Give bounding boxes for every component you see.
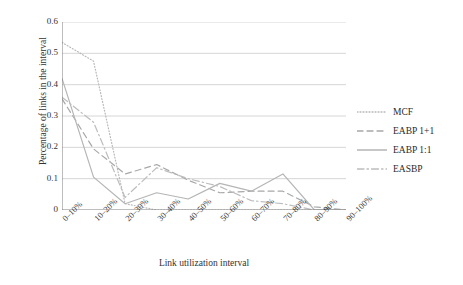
y-tick-label: 0.2 — [30, 142, 58, 151]
legend-item-easbp[interactable]: EASBP — [357, 161, 461, 177]
series-line-easbp — [62, 97, 346, 210]
legend-line-swatch — [357, 126, 387, 136]
y-tick-label: 0.5 — [30, 48, 58, 57]
plot-area — [62, 22, 346, 210]
legend-item-eabp-1-1[interactable]: EABP 1:1 — [357, 142, 461, 158]
y-tick-label: 0.3 — [30, 111, 58, 120]
legend-label: EASBP — [393, 164, 423, 174]
legend-item-mcf[interactable]: MCF — [357, 104, 461, 120]
y-tick-label: 0.1 — [30, 174, 58, 183]
x-tick-label: 90–100% — [344, 193, 374, 223]
legend-line-swatch — [357, 145, 387, 155]
gridlines — [62, 22, 346, 179]
series-line-mcf — [62, 42, 346, 210]
chart-page: Percentage of links in the interval 00.1… — [0, 0, 463, 285]
legend-item-eabp-1-1[interactable]: EABP 1+1 — [357, 123, 461, 139]
legend-label: EABP 1+1 — [393, 126, 434, 136]
series-line-eabp-1-1 — [62, 99, 346, 210]
legend-label: MCF — [393, 107, 413, 117]
chart-legend: MCFEABP 1+1EABP 1:1EASBP — [357, 104, 461, 180]
chart-svg — [62, 22, 346, 210]
y-tick-label: 0 — [30, 205, 58, 214]
legend-line-swatch — [357, 164, 387, 174]
x-axis-tick-labels: 0–10%10–20%20–30%30–40%40–50%50–60%60–70… — [62, 212, 346, 258]
series-lines — [62, 42, 346, 210]
x-axis-title: Link utilization interval — [62, 258, 346, 268]
legend-line-swatch — [357, 107, 387, 117]
y-tick-label: 0.6 — [30, 17, 58, 26]
legend-label: EABP 1:1 — [393, 145, 431, 155]
series-line-eabp-1-1 — [62, 78, 346, 210]
y-axis-tick-labels: 00.10.20.30.40.50.6 — [26, 22, 58, 210]
y-tick-label: 0.4 — [30, 80, 58, 89]
